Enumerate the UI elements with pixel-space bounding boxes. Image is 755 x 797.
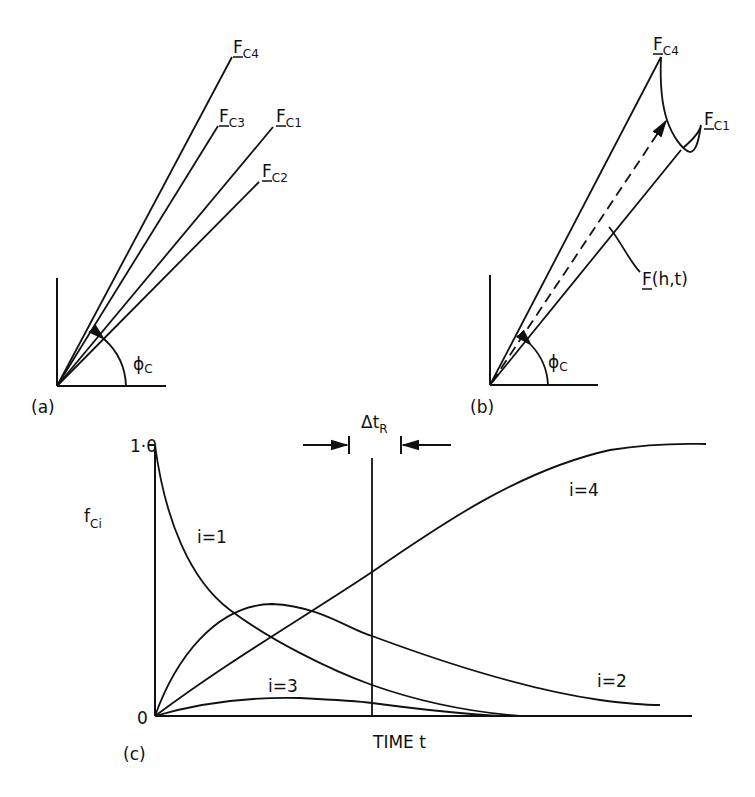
panel-b-label: (b) [470,397,494,417]
curve-label-i4: i=4 [569,480,599,500]
curve-i2 [155,604,660,716]
curve-label-i2: i=2 [597,671,627,691]
trajectory-label: F(h,t) [642,269,688,289]
vector-fc2 [57,182,259,386]
figure-canvas: FC4 FC3 FC1 FC2 ϕC (a) FC4 FC1 F(h,t) ϕC… [0,0,755,797]
panel-c: ΔtR 1·0 0 fCi i=1 i=2 i=3 i=4 TIME t (c) [84,412,706,764]
panel-a: FC4 FC3 FC1 FC2 ϕC (a) [31,37,302,417]
panel-c-label: (c) [123,744,146,764]
vector-fc3 [57,126,218,386]
panel-b: FC4 FC1 F(h,t) ϕC (b) [470,34,730,417]
angle-arc-b [531,345,548,385]
curve-i1 [155,445,520,716]
angle-arc [104,339,126,386]
angle-label-phi-c: ϕC [133,354,153,376]
y-tick-label-1: 1·0 [130,436,157,456]
y-tick-label-0: 0 [137,708,148,728]
vector-fc1 [57,127,273,386]
vector-fc4-b [490,57,661,385]
angle-label-phi-c-b: ϕC [548,352,568,374]
delta-tr-label: ΔtR [361,412,388,436]
curve-label-i1: i=1 [197,527,227,547]
y-axis-label: fCi [84,506,102,531]
vector-fc1-b [490,150,681,385]
dashed-resultant-vector [492,121,666,382]
trajectory-curve [661,57,701,152]
x-axis-label: TIME t [372,732,426,752]
leader-line [609,227,640,272]
panel-a-label: (a) [31,397,55,417]
curve-label-i3: i=3 [268,676,298,696]
vector-fc4 [57,57,232,386]
